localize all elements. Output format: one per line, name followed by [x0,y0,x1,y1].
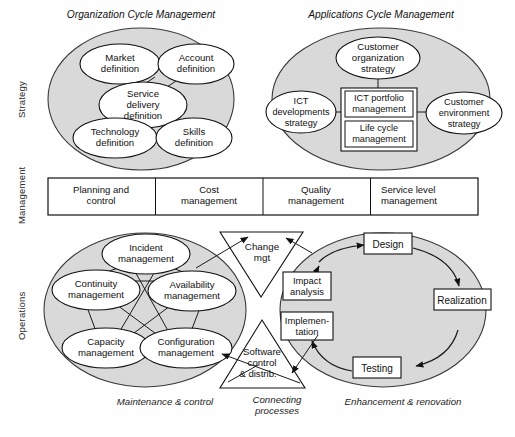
customer-environment-strategy-line2: environment [439,108,490,118]
life-cycle-management-line2: management [352,134,406,144]
node-continuity-management[interactable]: Continuity management [52,270,140,310]
change-mgt-line1: Change [245,241,280,252]
customer-organization-strategy-line2: organization [352,52,404,63]
cost-management-line1: Cost [199,184,219,195]
node-testing[interactable]: Testing [353,357,401,378]
node-realization[interactable]: Realization [434,289,491,310]
service-delivery-definition-line1: Service [127,88,159,99]
planning-and-control-line2: control [87,195,116,206]
node-incident-management[interactable]: Incident management [102,234,190,274]
management-cell-cost-management[interactable]: Cost management [156,178,264,215]
skills-definition-line1: Skills [183,126,206,137]
ict-portfolio-management-line1: ICT portfolio [354,93,404,103]
customer-environment-strategy-line3: strategy [448,119,481,129]
capacity-management-line2: management [78,347,134,358]
ict-developments-strategy-line1: ICT [294,96,309,106]
node-configuration-management[interactable]: Configuration management [140,328,232,368]
skills-definition-line2: definition [175,137,213,148]
quality-management-line1: Quality [301,184,331,195]
life-cycle-management-line1: Life cycle [360,123,398,133]
ict-developments-strategy-line2: developments [272,107,330,117]
testing-label: Testing [361,363,393,374]
planning-and-control-line1: Planning and [73,184,129,195]
account-definition-line2: definition [177,63,215,74]
ict-developments-strategy-line3: strategy [285,118,318,128]
title-organization-cycle-management: Organization Cycle Management [67,9,217,20]
service-level-management-line1: Service level [381,184,435,195]
market-definition-line2: definition [101,63,139,74]
node-market-definition[interactable]: Market definition [80,44,160,84]
node-implementation[interactable]: Implemen- tation [281,312,333,340]
ict-portfolio-management-line2: management [352,104,406,114]
node-customer-environment-strategy[interactable]: Customer environment strategy [426,92,502,134]
node-design[interactable]: Design [364,233,412,254]
node-customer-organization-strategy[interactable]: Customer organization strategy [336,37,420,79]
change-mgt-line2: mgt [254,252,271,263]
availability-management-line1: Availability [169,279,214,290]
title-applications-cycle-management: Applications Cycle Management [307,9,455,20]
customer-environment-strategy-line1: Customer [444,97,484,107]
node-ict-developments-strategy[interactable]: ICT developments strategy [266,91,336,133]
node-availability-management[interactable]: Availability management [148,271,236,311]
continuity-management-line1: Continuity [75,278,118,289]
impact-analysis-line2: analysis [290,286,324,297]
technology-definition-line1: Technology [91,126,140,137]
configuration-management-line2: management [158,347,214,358]
service-level-management-line2: management [381,195,437,206]
box-ict-portfolio-management[interactable]: ICT portfolio management [345,91,413,117]
design-label: Design [372,239,403,250]
box-life-cycle-management[interactable]: Life cycle management [345,121,413,147]
market-definition-line1: Market [105,52,135,63]
diagram-canvas: Strategy Management Operations Maintenan… [0,0,515,437]
incident-management-line1: Incident [129,242,163,253]
customer-organization-strategy-line1: Customer [357,41,399,52]
node-skills-definition[interactable]: Skills definition [156,118,232,158]
node-capacity-management[interactable]: Capacity management [62,328,150,368]
technology-definition-line2: definition [96,137,134,148]
software-control-line3: & distrib. [239,368,276,379]
implementation-line1: Implemen- [285,315,329,326]
customer-organization-strategy-line3: strategy [361,63,395,74]
configuration-management-line1: Configuration [157,336,214,347]
management-cell-quality-management[interactable]: Quality management [263,178,371,215]
node-impact-analysis[interactable]: Impact analysis [283,272,331,300]
incident-management-line2: management [118,253,174,264]
management-cell-planning-and-control[interactable]: Planning and control [48,178,156,215]
software-control-line2: control [248,357,277,368]
capacity-management-line1: Capacity [87,336,125,347]
node-account-definition[interactable]: Account definition [158,44,234,84]
continuity-management-line2: management [68,289,124,300]
implementation-line2: tation [296,326,319,337]
node-technology-definition[interactable]: Technology definition [73,118,157,158]
account-definition-line1: Account [179,52,214,63]
software-control-line1: Software [243,346,281,357]
impact-analysis-line1: Impact [293,275,322,286]
cost-management-line2: management [181,195,237,206]
management-cell-service-level-management[interactable]: Service level management [371,178,479,215]
realization-label: Realization [437,295,486,306]
quality-management-line2: management [288,195,344,206]
service-delivery-definition-line2: delivery [126,99,159,110]
availability-management-line2: management [164,290,220,301]
